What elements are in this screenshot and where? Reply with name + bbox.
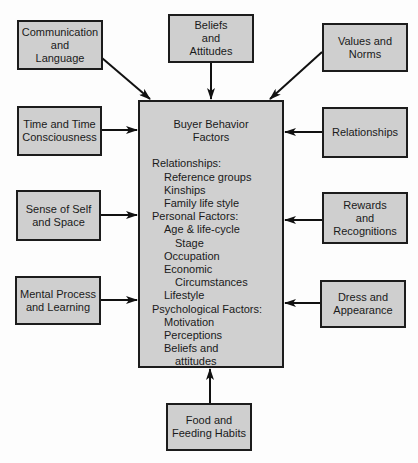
factor-item: Age & life-cycle xyxy=(140,223,282,236)
central-title: Buyer Behavior Factors xyxy=(140,118,282,144)
arrow-values-to-central xyxy=(270,52,322,99)
node-time-consciousness: Time and Time Consciousness xyxy=(17,106,102,156)
node-food-and-feeding-habits: Food and Feeding Habits xyxy=(166,403,252,451)
arrow-communication-to-central xyxy=(102,58,150,99)
factor-category: Personal Factors: xyxy=(140,210,282,223)
factor-item: Lifestyle xyxy=(140,289,282,302)
factor-category: Psychological Factors: xyxy=(140,303,282,316)
factor-item: Economic xyxy=(140,263,282,276)
factor-item: Stage xyxy=(140,237,282,250)
factor-item: attitudes xyxy=(140,355,282,368)
central-node-buyer-behavior-factors: Buyer Behavior Factors Relationships:Ref… xyxy=(138,100,284,368)
diagram-canvas: Communication and Language Beliefs and A… xyxy=(0,0,418,463)
factor-item: Circumstances xyxy=(140,276,282,289)
factor-item: Beliefs and xyxy=(140,342,282,355)
factor-item: Perceptions xyxy=(140,329,282,342)
node-relationships: Relationships xyxy=(322,107,408,158)
node-beliefs-and-attitudes: Beliefs and Attitudes xyxy=(168,14,254,63)
factor-item: Kinships xyxy=(140,184,282,197)
node-dress-and-appearance: Dress and Appearance xyxy=(320,280,406,328)
node-mental-process-and-learning: Mental Process and Learning xyxy=(15,276,101,325)
central-factor-list: Relationships:Reference groupsKinshipsFa… xyxy=(140,157,282,368)
factor-item: Family life style xyxy=(140,197,282,210)
factor-category: Relationships: xyxy=(140,157,282,170)
factor-item: Occupation xyxy=(140,250,282,263)
node-rewards-and-recognitions: Rewards and Recognitions xyxy=(322,192,408,244)
node-values-and-norms: Values and Norms xyxy=(322,23,408,72)
node-communication-and-language: Communication and Language xyxy=(17,20,103,70)
node-sense-of-self-and-space: Sense of Self and Space xyxy=(16,190,101,241)
factor-item: Motivation xyxy=(140,316,282,329)
factor-item: Reference groups xyxy=(140,171,282,184)
